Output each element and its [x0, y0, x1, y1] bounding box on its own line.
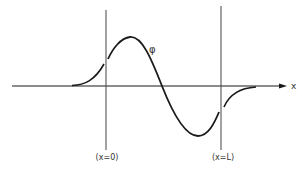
boundary-label-x0: (x=0) — [96, 153, 119, 162]
boundary-label-xL: (x=L) — [212, 153, 234, 162]
function-label-phi: φ — [149, 44, 156, 55]
curve-left-tail — [72, 64, 104, 86]
curve-right-tail — [224, 87, 256, 107]
x-axis-arrowhead-icon — [279, 84, 287, 89]
x-axis-label: x — [291, 81, 297, 91]
wavefunction-diagram: x (x=0) (x=L) φ — [0, 0, 302, 172]
